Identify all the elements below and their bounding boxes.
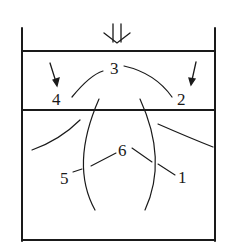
diagram-svg: 3 4 2 6 5 1 (0, 0, 233, 252)
label-1: 1 (178, 168, 187, 187)
leader-6-left (91, 153, 116, 166)
curve-right-lower (158, 124, 213, 147)
arrow-left-icon (50, 63, 59, 86)
diagram-canvas: 3 4 2 6 5 1 (0, 0, 233, 252)
curve-3-right (124, 66, 172, 97)
label-4: 4 (52, 90, 61, 109)
curve-5-boundary (83, 99, 99, 210)
curve-left-lower (32, 120, 80, 150)
leader-5 (73, 169, 82, 172)
arrow-right-icon (189, 62, 196, 85)
leader-1 (158, 164, 175, 175)
label-3: 3 (110, 59, 119, 78)
load-arrow-icon (104, 24, 130, 43)
curve-1-boundary (140, 99, 155, 210)
curve-3 (72, 71, 103, 97)
label-2: 2 (177, 90, 186, 109)
leader-6-right (132, 148, 152, 162)
label-5: 5 (60, 169, 69, 188)
label-6: 6 (118, 141, 127, 160)
